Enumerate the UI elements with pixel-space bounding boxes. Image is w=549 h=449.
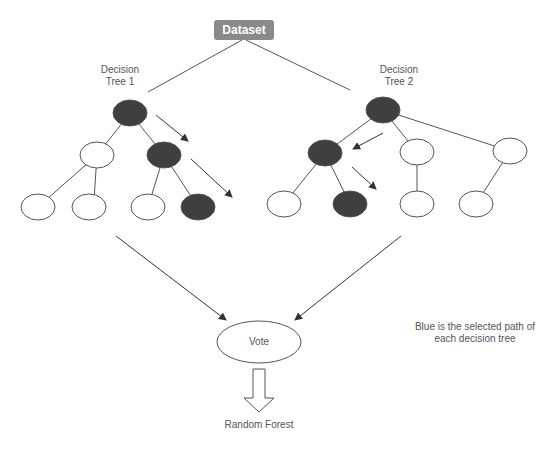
legend-note: Blue is the selected path of each decisi… — [405, 321, 545, 345]
tree1-root-node — [113, 100, 147, 126]
legend-note-line2: each decision tree — [405, 333, 545, 345]
dataset-edges — [148, 40, 350, 92]
tree1-leaf — [131, 194, 165, 220]
tree2-label-line1: Decision — [369, 64, 429, 76]
tree1-node — [80, 142, 114, 168]
legend-note-line1: Blue is the selected path of — [405, 321, 545, 333]
tree1-leaf — [181, 194, 215, 220]
tree2-leaf — [400, 191, 434, 217]
tree1-label-line1: Decision — [90, 64, 150, 76]
tree1-label-line2: Tree 1 — [90, 76, 150, 88]
tree2-node — [308, 140, 342, 166]
tree1-node — [147, 142, 181, 168]
tree2-leaf — [267, 191, 301, 217]
tree1-nodes — [21, 100, 215, 220]
output-arrow-icon — [244, 369, 274, 412]
tree2-label-line2: Tree 2 — [369, 76, 429, 88]
random-forest-diagram — [0, 0, 549, 449]
tree2-leaf — [333, 191, 367, 217]
tree2-nodes — [267, 97, 527, 217]
tree2-root-node — [366, 97, 400, 123]
tree2-node — [493, 138, 527, 164]
tree1-leaf — [21, 194, 55, 220]
vote-label: Vote — [229, 336, 289, 348]
random-forest-label: Random Forest — [214, 419, 304, 431]
tree1-leaf — [72, 194, 106, 220]
tree1-label: Decision Tree 1 — [90, 64, 150, 88]
tree2-leaf — [459, 191, 493, 217]
tree2-node — [400, 139, 434, 165]
tree2-label: Decision Tree 2 — [369, 64, 429, 88]
vote-arrows — [116, 236, 401, 320]
selected-path-arrows — [156, 115, 383, 197]
dataset-node: Dataset — [214, 20, 274, 40]
